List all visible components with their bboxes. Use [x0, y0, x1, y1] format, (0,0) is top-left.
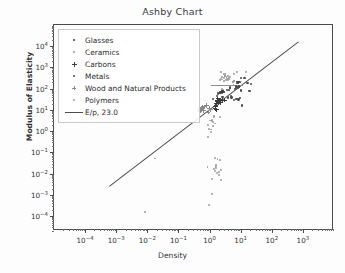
y-tick-label: 10−2 [10, 169, 48, 179]
data-point [213, 168, 215, 170]
y-tick-minor [52, 31, 54, 32]
data-point [243, 77, 245, 79]
x-tick-minor [219, 229, 220, 231]
x-tick-minor [291, 229, 292, 231]
plot-frame: GlassesCeramicsCarbonsMetalsWood and Nat… [53, 24, 333, 230]
y-tick-minor [52, 51, 54, 52]
x-tick-minor [327, 229, 328, 231]
y-tick-label: 10−3 [10, 190, 48, 200]
y-tick-minor [52, 223, 54, 224]
y-tick-minor [52, 91, 54, 92]
legend-item-e-p-23-0[interactable]: E/p, 23.0 [63, 106, 194, 118]
y-tick-minor [52, 113, 54, 114]
legend-item-wood-and-natural-products[interactable]: Wood and Natural Products [63, 82, 194, 94]
x-tick-major [272, 229, 273, 233]
legend-marker-dot [63, 34, 85, 46]
y-tick-minor [52, 142, 54, 143]
y-tick-minor [52, 100, 54, 101]
y-tick-minor [52, 132, 54, 133]
legend-item-label: Wood and Natural Products [85, 84, 186, 93]
x-tick-minor [138, 229, 139, 231]
x-tick-minor [296, 229, 297, 231]
y-tick-minor [52, 61, 54, 62]
y-tick-minor [52, 47, 54, 48]
y-tick-label: 10−1 [10, 147, 48, 157]
legend-item-ceramics[interactable]: Ceramics [63, 46, 194, 58]
x-tick-minor [208, 229, 209, 231]
y-tick-label: 102 [10, 84, 48, 94]
legend-item-label: E/p, 23.0 [85, 108, 118, 117]
y-tick-minor [52, 153, 54, 154]
x-tick-minor [162, 229, 163, 231]
x-tick-minor [287, 229, 288, 231]
y-tick-minor [52, 180, 54, 181]
x-tick-minor [63, 229, 64, 231]
data-point [144, 211, 146, 213]
legend-item-carbons[interactable]: Carbons [63, 58, 194, 70]
x-tick-minor [265, 229, 266, 231]
y-tick-minor [52, 95, 54, 96]
y-tick-minor [52, 156, 54, 157]
legend-item-metals[interactable]: Metals [63, 70, 194, 82]
y-tick-minor [52, 40, 54, 41]
x-tick-minor [69, 229, 70, 231]
y-tick-minor [52, 200, 54, 201]
y-tick-minor [52, 140, 54, 141]
data-point [220, 169, 222, 171]
legend-plus-swatch [72, 86, 77, 91]
y-tick-minor [52, 203, 54, 204]
x-tick-minor [262, 229, 263, 231]
x-tick-minor [107, 229, 108, 231]
y-tick-minor [52, 92, 54, 93]
legend-marker-line [63, 106, 85, 118]
data-point [227, 96, 229, 98]
y-tick-label: 104 [10, 41, 48, 51]
y-tick-minor [52, 161, 54, 162]
x-tick-minor [94, 229, 95, 231]
legend-item-glasses[interactable]: Glasses [63, 34, 194, 46]
legend-marker-plus [63, 58, 85, 70]
y-tick-minor [52, 104, 54, 105]
y-tick-minor [52, 134, 54, 135]
x-tick-major [85, 229, 86, 233]
x-tick-major [303, 229, 304, 233]
y-tick-minor [52, 217, 54, 218]
y-tick-minor [52, 219, 54, 220]
legend-item-polymers[interactable]: Polymers [63, 94, 194, 106]
x-tick-label: 103 [283, 235, 323, 245]
data-point [210, 129, 212, 131]
y-tick-minor [52, 48, 54, 49]
legend-plus-swatch [72, 62, 77, 67]
data-point [219, 159, 221, 161]
y-tick-minor [52, 138, 54, 139]
x-tick-minor [188, 229, 189, 231]
x-tick-minor [193, 229, 194, 231]
x-tick-minor [322, 229, 323, 231]
x-tick-minor [135, 229, 136, 231]
x-tick-minor [140, 229, 141, 231]
legend-dot-swatch [73, 75, 75, 77]
y-tick-minor [52, 201, 54, 202]
legend-marker-dot [63, 70, 85, 82]
x-tick-minor [131, 229, 132, 231]
y-tick-minor [52, 206, 54, 207]
x-tick-minor [104, 229, 105, 231]
y-tick-minor [52, 185, 54, 186]
legend-marker-dot [63, 46, 85, 58]
x-tick-minor [100, 229, 101, 231]
y-tick-minor [52, 198, 54, 199]
data-point [212, 125, 214, 127]
data-point [246, 82, 248, 84]
x-tick-minor [270, 229, 271, 231]
y-tick-minor [52, 82, 54, 83]
legend-item-label: Metals [85, 72, 109, 81]
legend-line-swatch [65, 112, 83, 113]
y-tick-label: 101 [10, 105, 48, 115]
legend-item-label: Glasses [85, 36, 113, 45]
y-tick-minor [52, 146, 54, 147]
data-point [240, 89, 242, 91]
x-tick-minor [172, 229, 173, 231]
data-point [207, 136, 209, 138]
y-tick-minor [52, 178, 54, 179]
y-tick-minor [52, 218, 54, 219]
